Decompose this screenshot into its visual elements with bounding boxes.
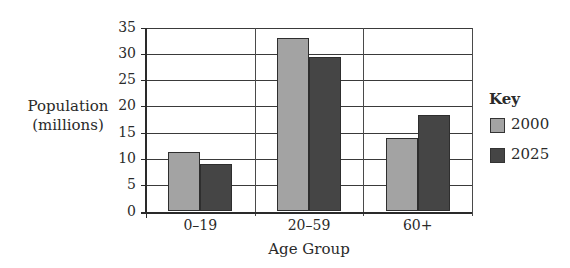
x-tick-0 <box>146 212 147 218</box>
y-axis-title-line2: (millions) <box>18 116 118 135</box>
gridline-30 <box>146 54 472 55</box>
bar-2025-1 <box>309 57 341 211</box>
y-axis-line <box>145 28 147 214</box>
y-axis-title: Population (millions) <box>18 97 118 135</box>
legend-title: Key <box>489 90 520 108</box>
legend-label-2025: 2025 <box>511 145 549 163</box>
x-tick-label-2: 60+ <box>368 217 468 233</box>
category-divider-2 <box>363 28 364 216</box>
legend-swatch-2025 <box>490 148 505 163</box>
bar-2000-1 <box>277 38 309 211</box>
gridline-35 <box>146 28 472 29</box>
y-tick-label-15: 15 <box>112 125 136 139</box>
y-tick-label-5: 5 <box>112 177 136 191</box>
bar-2025-2 <box>418 115 450 212</box>
y-tick-label-25: 25 <box>112 72 136 86</box>
x-tick-label-0: 0–19 <box>150 217 250 233</box>
y-tick-label-20: 20 <box>112 98 136 112</box>
category-divider-1 <box>255 28 256 216</box>
category-divider-3 <box>472 28 473 216</box>
x-axis-line <box>141 212 472 214</box>
legend-label-2000: 2000 <box>511 115 549 133</box>
bar-2000-2 <box>386 138 418 212</box>
y-tick-label-35: 35 <box>112 20 136 34</box>
y-tick-label-10: 10 <box>112 151 136 165</box>
bar-2000-0 <box>168 152 200 211</box>
bar-2025-0 <box>200 164 232 211</box>
y-tick-label-0: 0 <box>112 204 136 218</box>
legend-swatch-2000 <box>490 118 505 133</box>
x-tick-label-1: 20–59 <box>259 217 359 233</box>
y-axis-title-line1: Population <box>18 97 118 116</box>
y-tick-label-30: 30 <box>112 46 136 60</box>
x-axis-title: Age Group <box>209 240 409 258</box>
